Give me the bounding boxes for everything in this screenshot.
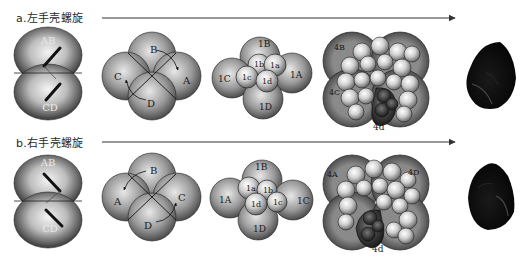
label-4B-a: 4B [334,43,345,52]
four-cell-stage-b: B A C D [102,153,201,241]
blastula-stage-a: 4B 4C 4d [323,32,429,132]
label-D-b: D [144,220,152,231]
label-AB-b: AB [40,157,56,168]
label-4d-b: 4d [372,244,384,254]
label-D-a: D [147,98,155,109]
label-4D-b: 4D [408,168,420,177]
label-4C-a: 4C [329,88,340,97]
label-1A-b: 1A [219,195,232,205]
row-b: AB CD B A C D 1B [14,142,514,254]
eight-cell-stage-a: 1B 1A 1C 1D 1a 1b 1c 1d [212,37,312,119]
label-A-b: A [113,196,122,207]
two-cell-stage-a: AB CD [14,27,82,120]
label-C-a: C [114,71,122,82]
shell-b [468,163,514,230]
label-A-a: A [182,75,191,86]
label-1d-b: 1d [251,200,261,209]
label-C-b: C [178,192,186,203]
blastula-stage-b: 4A 4D 4d [323,155,429,254]
label-1D-b: 1D [253,224,266,234]
label-1c-a: 1c [242,73,252,82]
label-AB-a: AB [40,35,56,46]
label-1a-b: 1a [246,184,256,193]
label-1B-b: 1B [255,162,268,172]
label-1b-b: 1b [263,186,273,195]
label-1D-a: 1D [259,102,272,112]
two-cell-stage-b: AB CD [14,155,82,248]
label-1a-a: 1a [270,61,280,70]
label-CD-b: CD [42,223,58,234]
label-1b-a: 1b [254,60,264,69]
four-cell-stage-a: B A C D [102,32,201,120]
label-4A-b: 4A [327,170,338,179]
label-1C-b: 1C [297,196,310,206]
label-1B-a: 1B [258,39,271,49]
shell-a [466,42,516,109]
label-CD-a: CD [42,102,58,113]
cleavage-diagram: AB CD B A C D 1B [0,0,520,265]
label-1d-a: 1d [262,77,272,86]
label-1c-b: 1c [273,198,283,207]
label-1C-a: 1C [218,74,231,84]
eight-cell-stage-b: 1B 1A 1C 1D 1a 1b 1c 1d [210,160,313,240]
label-1A-a: 1A [290,70,303,80]
label-4d-a: 4d [373,122,385,132]
label-B-a: B [150,44,157,55]
label-B-b: B [150,165,157,176]
row-a: AB CD B A C D 1B [14,18,516,132]
